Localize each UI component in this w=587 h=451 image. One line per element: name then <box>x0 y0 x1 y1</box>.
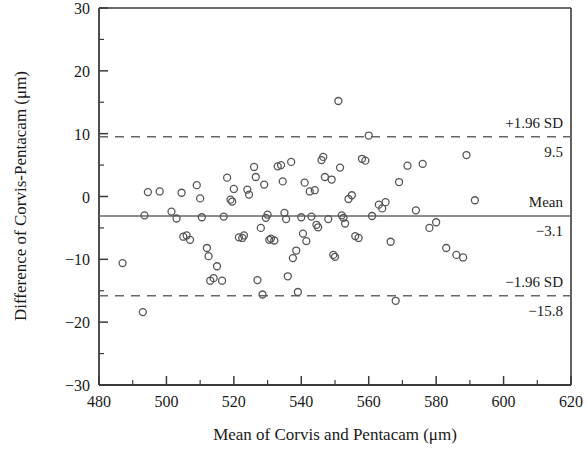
y-tick-label: −10 <box>65 251 90 268</box>
upper-limit-of-agreement-label: +1.96 SD <box>505 115 563 131</box>
scatter-plot-svg: 480500520540560580600620 3020100−10−20−3… <box>0 0 587 451</box>
lower-limit-of-agreement-value: −15.8 <box>528 303 563 319</box>
bland-altman-chart: 480500520540560580600620 3020100−10−20−3… <box>0 0 587 451</box>
x-tick-label: 620 <box>559 393 583 410</box>
x-tick-label: 540 <box>289 393 313 410</box>
mean-difference-value: −3.1 <box>536 223 563 239</box>
y-axis-title: Difference of Corvis-Pentacam (μm) <box>11 71 30 321</box>
x-tick-label: 600 <box>492 393 516 410</box>
y-tick-label: 0 <box>82 189 90 206</box>
mean-difference-label: Mean <box>529 194 564 210</box>
upper-limit-of-agreement-value: 9.5 <box>544 144 563 160</box>
x-tick-label: 480 <box>87 393 111 410</box>
x-tick-label: 500 <box>154 393 178 410</box>
y-tick-label: −30 <box>65 377 90 394</box>
x-tick-label: 520 <box>222 393 246 410</box>
x-tick-label: 580 <box>424 393 448 410</box>
x-axis-title: Mean of Corvis and Pentacam (μm) <box>213 425 457 444</box>
lower-limit-of-agreement-label: −1.96 SD <box>505 274 563 290</box>
y-tick-label: −20 <box>65 314 90 331</box>
y-tick-label: 10 <box>74 126 90 143</box>
y-tick-label: 30 <box>74 0 90 17</box>
x-tick-label: 560 <box>357 393 381 410</box>
y-tick-label: 20 <box>74 63 90 80</box>
